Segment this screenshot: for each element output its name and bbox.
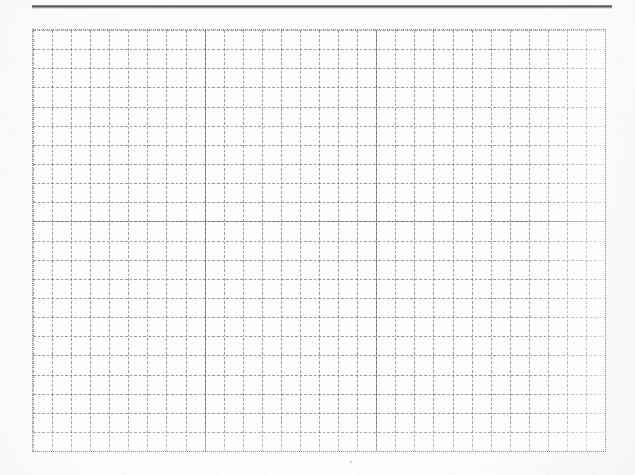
grid-accent-row-10	[33, 221, 605, 222]
stray-speck	[350, 461, 352, 463]
grid-horizontal-lines	[33, 30, 605, 451]
scanned-page	[0, 0, 635, 475]
grid-accent-column-18	[376, 30, 377, 451]
grid-accent-column-9	[205, 30, 206, 451]
top-horizontal-rule	[32, 5, 612, 8]
grid-vertical-lines	[33, 30, 605, 451]
grid-paper-area	[33, 30, 605, 451]
grid-outer-frame	[32, 29, 606, 452]
grid-ink-fade-overlay	[33, 30, 605, 451]
